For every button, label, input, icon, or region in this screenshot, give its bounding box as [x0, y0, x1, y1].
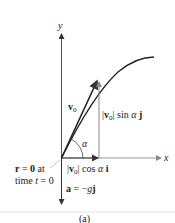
velocity-label: v0	[68, 101, 77, 114]
origin-time-label: time t = 0	[15, 175, 54, 186]
y-axis-label: y	[57, 20, 63, 31]
angle-label: α	[82, 138, 88, 149]
origin-leader-line	[50, 160, 60, 168]
horizontal-component-label: |v0| cos α i	[67, 163, 109, 176]
projectile-diagram: y x v0 α |v0| sin α j |v0| cos α i r = 0…	[0, 0, 175, 223]
origin-position-label: r = 0 at	[15, 163, 45, 174]
vertical-component-label: |v0| sin α j	[102, 109, 142, 122]
figure-caption: (a)	[79, 213, 90, 223]
acceleration-label: a = −gj	[66, 183, 96, 194]
x-axis-label: x	[163, 152, 169, 163]
